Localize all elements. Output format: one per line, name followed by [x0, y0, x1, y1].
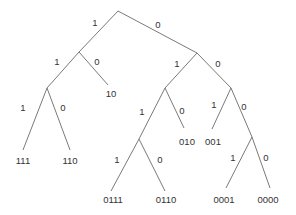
edges-layer — [23, 11, 270, 191]
tree-edge — [111, 139, 139, 191]
edge-bit-label: 0 — [241, 101, 246, 112]
leaf-code-label: 0111 — [103, 194, 123, 205]
tree-edge — [165, 53, 197, 88]
leaf-code-label: 111 — [16, 155, 30, 166]
edge-bit-label: 0 — [94, 56, 99, 67]
tree-edge — [197, 53, 231, 88]
tree-edge — [79, 11, 118, 52]
edge-bit-label: 1 — [174, 58, 179, 69]
leaf-code-label: 0110 — [156, 194, 176, 205]
edge-bit-label: 0 — [179, 105, 184, 116]
leaf-code-label: 001 — [205, 136, 221, 147]
binary-code-tree: 1010101010101010 11111010010001011101100… — [0, 0, 296, 215]
edge-bit-label: 0 — [157, 154, 162, 165]
leaf-labels-layer: 111110100100010111011000010000 — [16, 88, 279, 205]
tree-edge — [23, 88, 47, 150]
leaf-code-label: 010 — [179, 136, 195, 147]
edge-bit-label: 0 — [155, 19, 160, 30]
tree-edge — [47, 88, 70, 150]
edge-bit-label: 1 — [92, 17, 97, 28]
leaf-code-label: 110 — [62, 155, 77, 166]
tree-edge — [139, 139, 165, 191]
leaf-code-label: 10 — [106, 88, 117, 99]
edge-bit-label: 1 — [211, 99, 216, 110]
leaf-code-label: 0001 — [213, 194, 234, 205]
edge-bit-label: 1 — [54, 56, 59, 67]
tree-edge — [47, 52, 79, 88]
edge-bit-label: 0 — [60, 102, 65, 113]
leaf-code-label: 0000 — [257, 194, 278, 205]
edge-bit-label: 0 — [215, 58, 220, 69]
tree-edge — [118, 11, 197, 53]
tree-canvas: 1010101010101010 11111010010001011101100… — [0, 0, 296, 215]
edge-labels-layer: 1010101010101010 — [20, 17, 268, 165]
edge-bit-label: 0 — [263, 152, 268, 163]
edge-bit-label: 1 — [20, 102, 25, 113]
edge-bit-label: 1 — [230, 152, 235, 163]
edge-bit-label: 1 — [139, 106, 144, 117]
edge-bit-label: 1 — [114, 154, 119, 165]
tree-edge — [231, 88, 252, 137]
